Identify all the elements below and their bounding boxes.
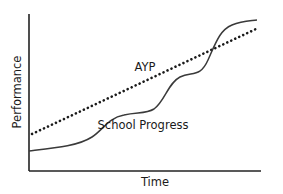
x-axis-label: Time bbox=[140, 175, 169, 189]
y-axis-label: Performance bbox=[10, 56, 24, 129]
ayp-label: AYP bbox=[135, 60, 156, 74]
chart: AYP School Progress Time Performance bbox=[0, 0, 283, 194]
school-progress-label: School Progress bbox=[98, 118, 189, 132]
